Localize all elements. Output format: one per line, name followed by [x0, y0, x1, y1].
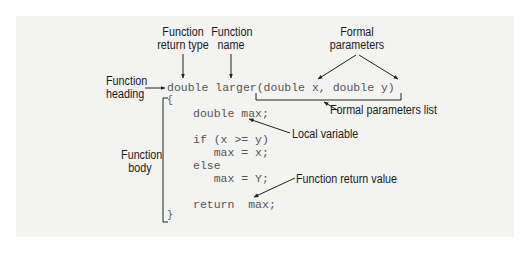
arrow-param-x [318, 55, 356, 79]
body-bracket [163, 98, 168, 222]
arrow-local-variable [249, 119, 290, 133]
params-bracket [256, 93, 401, 100]
arrow-params-list [324, 102, 339, 111]
arrow-return-value [254, 178, 295, 197]
arrow-param-y [359, 55, 398, 79]
connector-lines [0, 0, 532, 254]
